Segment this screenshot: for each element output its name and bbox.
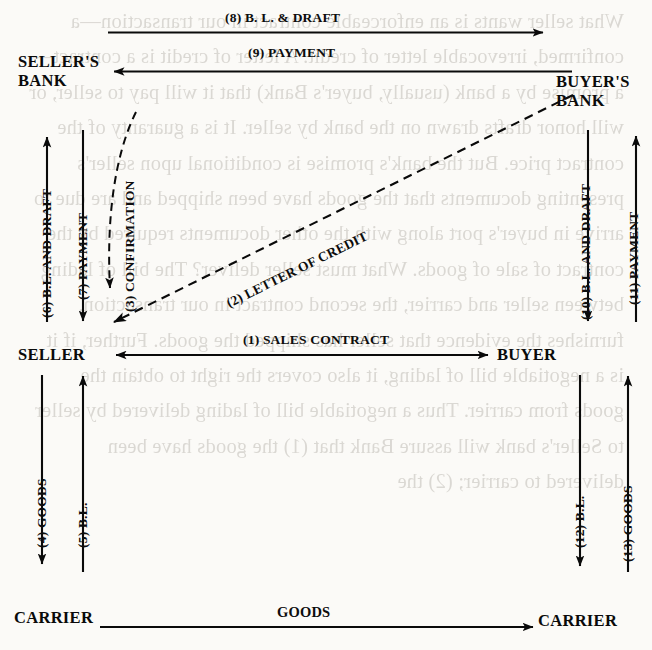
- edge-label-8: (8) B. L. & DRAFT: [225, 10, 340, 25]
- edge-label-4: (4) GOODS: [34, 478, 49, 548]
- transaction-flow-diagram: [0, 0, 652, 650]
- edge-label-goods: GOODS: [277, 605, 330, 620]
- node-sellers-bank[interactable]: SELLER'S BANK: [18, 52, 99, 90]
- edge-label-5: (5) B.L.: [75, 503, 90, 548]
- edge-2-line: [114, 95, 573, 322]
- scanned-diagram-page: What seller wants is an enforceable cont…: [0, 0, 652, 650]
- node-carrier-left[interactable]: CARRIER: [14, 608, 93, 627]
- edge-label-12: (12) B.L.: [572, 496, 587, 548]
- edge-label-7: (7) PAYMENT: [75, 213, 90, 300]
- edge-label-13: (13) GOODS: [620, 485, 635, 562]
- edge-label-10: (10) B.L. AND DRAFT: [578, 184, 593, 320]
- edge-label-11: (11) PAYMENT: [626, 211, 641, 305]
- node-carrier-right[interactable]: CARRIER: [538, 611, 617, 630]
- node-buyers-bank[interactable]: BUYER'S BANK: [556, 72, 630, 110]
- edge-label-6: (6) B.L. AND DRAFT: [39, 189, 54, 318]
- node-seller[interactable]: SELLER: [18, 345, 85, 364]
- edge-label-1: (1) SALES CONTRACT: [243, 332, 389, 347]
- edge-label-3: (3) CONFIRMATION: [122, 180, 137, 312]
- edge-label-9: (9) PAYMENT: [248, 45, 335, 60]
- node-buyer[interactable]: BUYER: [497, 345, 556, 364]
